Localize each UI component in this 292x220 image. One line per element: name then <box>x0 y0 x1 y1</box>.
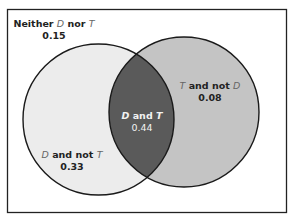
label-d-not-t: D and not T 0.33 <box>42 149 103 173</box>
label-text: and not <box>185 80 233 91</box>
venn-diagram: Neither D nor T 0.15 D and not T 0.33 D … <box>0 0 292 220</box>
var-d: D <box>57 18 64 29</box>
var-t: T <box>89 18 95 29</box>
var-d: D <box>122 110 130 121</box>
value-t-not-d: 0.08 <box>198 92 221 103</box>
label-text: and not <box>49 149 97 160</box>
value-d-not-t: 0.33 <box>60 161 83 172</box>
label-neither: Neither D nor T 0.15 <box>13 18 94 42</box>
label-text: and <box>129 110 156 121</box>
label-text: nor <box>64 18 89 29</box>
var-d: D <box>233 80 240 91</box>
label-d-and-t: D and T 0.44 <box>122 110 163 134</box>
label-text: Neither <box>13 18 56 29</box>
label-t-not-d: T and not D 0.08 <box>180 80 241 104</box>
value-neither: 0.15 <box>42 30 65 41</box>
value-d-and-t: 0.44 <box>131 122 152 133</box>
var-t: T <box>156 110 162 121</box>
var-t: T <box>97 149 103 160</box>
